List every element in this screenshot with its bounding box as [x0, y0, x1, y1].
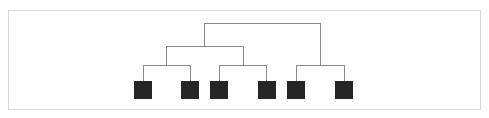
diagram-frame: [8, 10, 481, 110]
root-connector: [204, 23, 321, 24]
pair-3-stem-a: [296, 65, 297, 81]
pair-2-connector: [219, 65, 267, 66]
group-left-stem-b: [243, 46, 244, 65]
group-left-connector: [166, 46, 244, 47]
leaf-node-6: [335, 81, 353, 99]
pair-1-stem-a: [143, 65, 144, 81]
leaf-node-5: [287, 81, 305, 99]
root-left-stem: [204, 23, 205, 47]
leaf-node-3: [210, 81, 228, 99]
leaf-node-1: [134, 81, 152, 99]
pair-2-stem-a: [219, 65, 220, 81]
root-right-stem: [320, 23, 321, 65]
pair-3-stem-b: [344, 65, 345, 81]
group-left-stem-a: [166, 46, 167, 65]
leaf-node-2: [181, 81, 199, 99]
leaf-node-4: [258, 81, 276, 99]
pair-2-stem-b: [266, 65, 267, 81]
pair-3-connector: [296, 65, 345, 66]
pair-1-connector: [143, 65, 191, 66]
pair-1-stem-b: [190, 65, 191, 81]
